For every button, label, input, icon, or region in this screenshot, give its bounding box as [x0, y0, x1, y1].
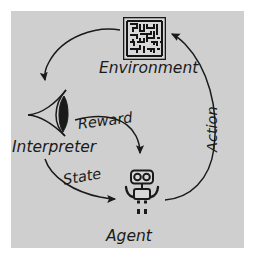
diagram-root: Environment Interpreter Agent Reward Sta… — [0, 0, 255, 260]
node-label-agent: Agent — [106, 229, 152, 245]
eye-icon — [26, 89, 80, 137]
edge-label-action: Action — [205, 106, 220, 152]
node-label-environment: Environment — [99, 61, 198, 77]
maze-icon — [123, 17, 166, 60]
node-label-interpreter: Interpreter — [12, 140, 96, 156]
robot-icon — [119, 169, 165, 217]
